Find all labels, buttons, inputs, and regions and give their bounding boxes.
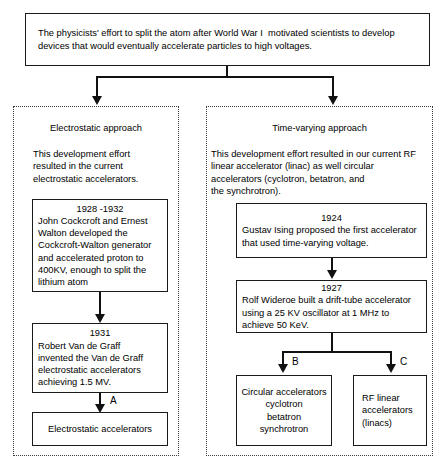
time-varying-heading: Time-varying approach: [206, 122, 433, 134]
left-branch-drop-line: [96, 76, 98, 97]
time-varying-description: This development effort resulted in our …: [211, 148, 435, 197]
connector-cockcroft-to-vandegraff: [99, 292, 101, 316]
node-box-1927: 1927 Rolf Wideroe built a drift-tube acc…: [236, 280, 427, 333]
node-year-1931: 1931: [38, 327, 162, 339]
electrostatic-description: This development effort resulted in the …: [33, 148, 173, 185]
right-branch-drop-line: [332, 76, 334, 97]
outcome-text-rf-linear-accelerators: RF linear accelerators (linacs): [362, 392, 418, 429]
outcome-box-circular-accelerators: Circular accelerators cyclotron betatron…: [236, 375, 332, 446]
outcome-box-electrostatic: Electrostatic accelerators: [32, 412, 168, 446]
title-box: The physicists' effort to split the atom…: [25, 13, 430, 66]
node-text-1927: Rolf Wideroe built a drift-tube accelera…: [242, 294, 421, 331]
connector-to-rf-linear-arrowhead: [386, 364, 396, 373]
wideroe-branch-line: [282, 351, 391, 353]
electrostatic-heading: Electrostatic approach: [13, 122, 179, 134]
node-year-1927: 1927: [242, 282, 421, 294]
node-year-1924: 1924: [242, 212, 421, 224]
node-box-1928-1932: 1928 -1932 John Cockcroft and Ernest Wal…: [32, 199, 168, 292]
connector-to-circular-arrowhead: [278, 364, 288, 373]
left-branch-arrowhead: [92, 96, 102, 105]
node-box-1924: 1924 Gustav Ising proposed the first acc…: [236, 203, 427, 258]
outcome-box-rf-linear-accelerators: RF linear accelerators (linacs): [353, 375, 427, 446]
title-box-text: The physicists' effort to split the atom…: [38, 27, 417, 52]
edge-label-b: B: [292, 355, 312, 368]
title-branch-line: [96, 76, 333, 78]
node-box-1931: 1931 Robert Van de Graff invented the Va…: [32, 323, 168, 393]
node-text-1931: Robert Van de Graff invented the Van de …: [38, 340, 162, 389]
edge-label-a: A: [110, 394, 130, 407]
node-text-1924: Gustav Ising proposed the first accelera…: [242, 224, 421, 249]
connector-ising-to-wideroe-arrowhead: [327, 270, 337, 279]
flowchart-diagram: The physicists' effort to split the atom…: [0, 0, 444, 475]
wideroe-stem-line: [331, 333, 333, 352]
node-text-1928-1932: John Cockcroft and Ernest Walton develop…: [38, 215, 162, 289]
connector-cockcroft-to-vandegraff-arrowhead: [95, 314, 105, 323]
node-year-1928-1932: 1928 -1932: [38, 203, 162, 215]
outcome-text-electrostatic: Electrostatic accelerators: [37, 423, 163, 435]
edge-label-c: C: [400, 355, 420, 368]
outcome-text-circular-accelerators: Circular accelerators cyclotron betatron…: [240, 386, 328, 435]
right-branch-arrowhead: [328, 96, 338, 105]
